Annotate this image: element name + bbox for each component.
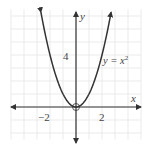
- tick-label-y-4: 4: [63, 50, 69, 62]
- tick-label-x-2: 2: [99, 111, 105, 123]
- parabola-chart: y x 4 −2 2 y = x2: [0, 0, 151, 150]
- tick-label-x-neg2: −2: [38, 111, 50, 123]
- x-axis-label: x: [130, 92, 136, 104]
- y-axis-label: y: [79, 10, 85, 22]
- curve-label: y = x2: [102, 54, 129, 66]
